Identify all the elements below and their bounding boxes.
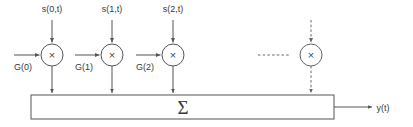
block-diagram: × × × × Σ s(0,t) s(1,t) s(2 <box>0 0 413 127</box>
multiplier-2: × <box>162 44 184 66</box>
multiplier-1: × <box>101 44 123 66</box>
signal-input-arrows <box>52 20 311 43</box>
gain-label-1: G(1) <box>75 62 93 72</box>
multiply-icon: × <box>49 49 55 61</box>
multiply-icon: × <box>109 49 115 61</box>
diagram-canvas: × × × × Σ s(0,t) s(1,t) s(2 <box>0 0 413 127</box>
multiply-icon: × <box>170 49 176 61</box>
sigma-symbol: Σ <box>177 97 188 118</box>
gain-label-0: G(0) <box>14 62 32 72</box>
multiplier-0: × <box>41 44 63 66</box>
multiply-icon: × <box>308 49 314 61</box>
output-label: y(t) <box>377 103 390 113</box>
signal-label-2: s(2,t) <box>163 4 184 14</box>
signal-label-0: s(0,t) <box>42 4 63 14</box>
multiplier-n: × <box>300 44 322 66</box>
gain-labels: G(0) G(1) G(2) <box>14 62 154 72</box>
signal-labels: s(0,t) s(1,t) s(2,t) <box>42 4 184 14</box>
gain-label-2: G(2) <box>136 62 154 72</box>
signal-label-1: s(1,t) <box>102 4 123 14</box>
